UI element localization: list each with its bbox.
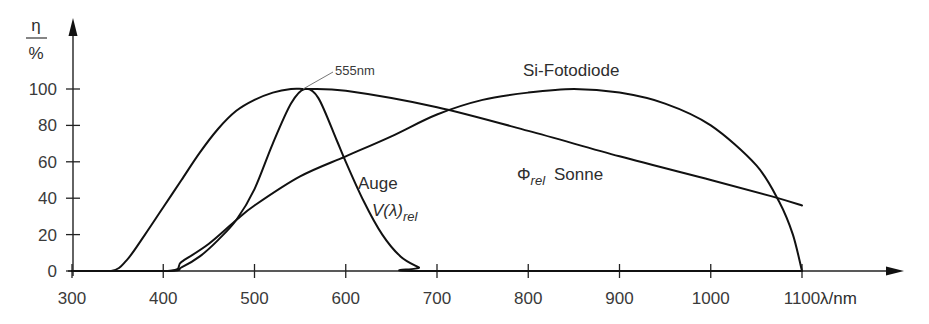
curves bbox=[72, 89, 802, 271]
si-photodiode-label: Si-Fotodiode bbox=[523, 61, 619, 80]
x-tick-label: 700 bbox=[423, 289, 451, 308]
x-axis-arrow-icon bbox=[886, 267, 904, 276]
sun-phi-symbol: Φ bbox=[517, 165, 531, 184]
eye-function-main: V(λ) bbox=[372, 201, 403, 220]
sun-label: ΦrelSonne bbox=[517, 165, 603, 188]
y-tick-label: 20 bbox=[38, 226, 57, 245]
x-tick-label: 800 bbox=[514, 289, 542, 308]
peak-wavelength-label: 555nm bbox=[335, 63, 375, 78]
y-axis-label-eta: η bbox=[31, 16, 40, 35]
x-tick-label: 900 bbox=[605, 289, 633, 308]
x-tick-label: 1100 bbox=[784, 289, 821, 308]
sun-label-text: Sonne bbox=[554, 165, 603, 184]
x-tick-label: 1000 bbox=[692, 289, 730, 308]
y-axis-label-percent: % bbox=[28, 44, 43, 63]
eye-label: Auge bbox=[358, 174, 398, 193]
x-tick-label: 400 bbox=[149, 289, 177, 308]
y-tick-label: 60 bbox=[38, 153, 57, 172]
peak-leader-line bbox=[303, 72, 333, 89]
y-ticks: 020406080100 bbox=[29, 80, 80, 281]
y-tick-label: 40 bbox=[38, 189, 57, 208]
efficiency-chart: η % 020406080100 30040050060070080090010… bbox=[0, 0, 929, 324]
x-axis-label: λ/nm bbox=[820, 289, 857, 308]
y-axis-arrow-icon bbox=[69, 18, 78, 36]
y-tick-label: 0 bbox=[48, 262, 57, 281]
x-tick-label: 600 bbox=[332, 289, 360, 308]
eye-function-sub: rel bbox=[403, 209, 419, 224]
eye-function-label: V(λ)rel bbox=[372, 201, 419, 224]
y-axis bbox=[69, 18, 78, 276]
x-tick-label: 500 bbox=[240, 289, 268, 308]
sun-label-sub: rel bbox=[531, 173, 547, 188]
y-tick-label: 100 bbox=[29, 80, 57, 99]
x-tick-label: 300 bbox=[58, 289, 86, 308]
y-tick-label: 80 bbox=[38, 116, 57, 135]
